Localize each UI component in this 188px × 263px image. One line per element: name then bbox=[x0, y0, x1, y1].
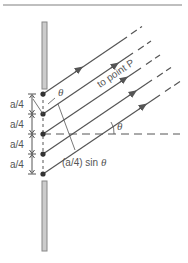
label-a4-4: a/4 bbox=[10, 159, 24, 170]
lower-slit-wall bbox=[42, 181, 47, 251]
upper-slit-wall bbox=[42, 22, 47, 89]
source-points bbox=[40, 91, 45, 176]
dimension-markers bbox=[28, 94, 36, 174]
rays bbox=[43, 27, 180, 175]
path-diff-leader bbox=[58, 104, 75, 150]
label-a4-2: a/4 bbox=[10, 119, 24, 130]
theta-label-top: θ bbox=[58, 86, 64, 98]
diffraction-diagram: a/4 a/4 a/4 a/4 θ θ to point P (a/4) sin… bbox=[0, 0, 188, 263]
path-difference-label: (a/4) sin θ bbox=[62, 156, 107, 168]
label-a4-3: a/4 bbox=[10, 139, 24, 150]
ray-2 bbox=[43, 41, 151, 114]
theta-arc-top bbox=[48, 98, 55, 104]
perpendicular-line bbox=[33, 99, 43, 114]
theta-label-right: θ bbox=[117, 120, 123, 132]
label-a4-1: a/4 bbox=[10, 99, 24, 110]
